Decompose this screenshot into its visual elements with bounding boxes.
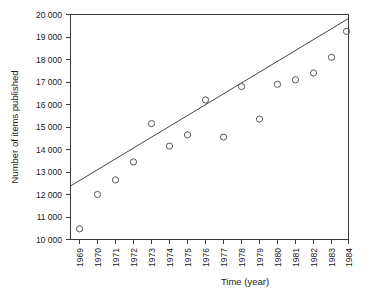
y-tick-label-10000: 10 000 xyxy=(36,235,62,245)
y-tick-label-12000: 12 000 xyxy=(36,190,62,200)
x-tick-label-1970: 1970 xyxy=(93,248,103,267)
x-tick-label-1984: 1984 xyxy=(344,248,354,267)
x-tick-label-1978: 1978 xyxy=(237,248,247,267)
x-tick-label-1975: 1975 xyxy=(183,248,193,267)
regression-line xyxy=(71,19,349,187)
x-tick-label-1973: 1973 xyxy=(147,248,157,267)
data-point-1976 xyxy=(202,97,208,103)
x-tick-label-1981: 1981 xyxy=(291,248,301,267)
linear-fit-line xyxy=(71,19,349,187)
x-axis-ticks xyxy=(80,240,349,245)
x-tick-label-1971: 1971 xyxy=(111,248,121,267)
data-point-1969 xyxy=(76,226,82,232)
y-axis-label: Number of items published xyxy=(9,71,20,184)
y-tick-label-15000: 15 000 xyxy=(36,122,62,132)
y-tick-label-17000: 17 000 xyxy=(36,77,62,87)
y-tick-label-13000: 13 000 xyxy=(36,167,62,177)
data-points xyxy=(76,28,349,232)
x-axis-tick-labels: 1969 1970 1971 1972 1973 1974 1975 1976 … xyxy=(75,248,354,267)
data-point-1971 xyxy=(112,177,118,183)
x-tick-label-1979: 1979 xyxy=(255,248,265,267)
x-axis-label: Time (year) xyxy=(221,276,269,287)
y-tick-label-14000: 14 000 xyxy=(36,145,62,155)
y-axis-tick-labels: 10 000 11 000 12 000 13 000 14 000 15 00… xyxy=(36,10,62,245)
x-tick-label-1976: 1976 xyxy=(201,248,211,267)
publication-trend-scatter-chart: 10 000 11 000 12 000 13 000 14 000 15 00… xyxy=(0,0,367,292)
data-point-1970 xyxy=(94,191,100,197)
x-tick-label-1980: 1980 xyxy=(273,248,283,267)
y-tick-label-20000: 20 000 xyxy=(36,10,62,20)
data-point-1978 xyxy=(238,83,244,89)
data-point-1982 xyxy=(310,70,316,76)
x-tick-label-1974: 1974 xyxy=(165,248,175,267)
x-tick-label-1977: 1977 xyxy=(219,248,229,267)
y-tick-label-18000: 18 000 xyxy=(36,55,62,65)
data-point-1977 xyxy=(220,134,226,140)
data-point-1983 xyxy=(328,54,334,60)
x-tick-label-1982: 1982 xyxy=(309,248,319,267)
y-axis-ticks xyxy=(66,15,71,240)
data-point-1979 xyxy=(256,116,262,122)
data-point-1974 xyxy=(166,143,172,149)
axis-frame-path xyxy=(71,15,349,240)
plot-frame xyxy=(71,15,349,240)
y-tick-label-19000: 19 000 xyxy=(36,32,62,42)
y-tick-label-16000: 16 000 xyxy=(36,100,62,110)
y-tick-label-11000: 11 000 xyxy=(37,212,63,222)
data-point-1981 xyxy=(292,77,298,83)
data-point-1975 xyxy=(184,132,190,138)
data-point-1972 xyxy=(130,159,136,165)
x-tick-label-1983: 1983 xyxy=(327,248,337,267)
data-point-1973 xyxy=(148,121,154,127)
data-point-1980 xyxy=(274,81,280,87)
x-tick-label-1969: 1969 xyxy=(75,248,85,267)
x-tick-label-1972: 1972 xyxy=(129,248,139,267)
